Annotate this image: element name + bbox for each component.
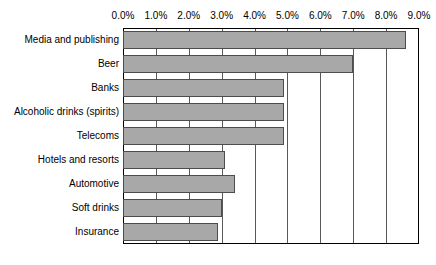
y-category-label: Hotels and resorts	[0, 154, 119, 166]
bar	[123, 127, 284, 145]
y-category-label: Alcoholic drinks (spirits)	[0, 106, 119, 118]
bar-row	[123, 100, 419, 124]
y-category-label: Insurance	[0, 226, 119, 238]
x-tick-label: 0.0%	[112, 10, 135, 21]
bar	[123, 79, 284, 97]
y-category-label: Automotive	[0, 178, 119, 190]
bar-row	[123, 52, 419, 76]
y-category-label: Media and publishing	[0, 34, 119, 46]
bar	[123, 55, 353, 73]
y-axis-category-labels: Media and publishingBeerBanksAlcoholic d…	[0, 28, 119, 244]
x-tick-label: 2.0%	[177, 10, 200, 21]
bar-row	[123, 196, 419, 220]
bar-row	[123, 148, 419, 172]
y-category-label: Banks	[0, 82, 119, 94]
y-category-label: Telecoms	[0, 130, 119, 142]
bar	[123, 103, 284, 121]
bar	[123, 223, 218, 241]
x-tick-label: 8.0%	[375, 10, 398, 21]
x-tick-label: 6.0%	[309, 10, 332, 21]
bar-row	[123, 172, 419, 196]
y-category-label: Soft drinks	[0, 202, 119, 214]
x-axis-tick-labels: 0.0%1.0%2.0%3.0%4.0%5.0%6.0%7.0%8.0%9.0%	[0, 10, 436, 24]
bar	[123, 31, 406, 49]
x-tick-label: 3.0%	[210, 10, 233, 21]
bar-row	[123, 124, 419, 148]
bar	[123, 151, 225, 169]
x-tick-label: 5.0%	[276, 10, 299, 21]
x-tick-label: 9.0%	[408, 10, 431, 21]
bars-layer	[123, 28, 419, 244]
x-tick-label: 1.0%	[144, 10, 167, 21]
x-tick-label: 4.0%	[243, 10, 266, 21]
x-tick-label: 7.0%	[342, 10, 365, 21]
bar-row	[123, 28, 419, 52]
y-category-label: Beer	[0, 58, 119, 70]
bar-row	[123, 220, 419, 244]
bar	[123, 175, 235, 193]
bar-row	[123, 76, 419, 100]
bar-chart: 0.0%1.0%2.0%3.0%4.0%5.0%6.0%7.0%8.0%9.0%…	[0, 0, 436, 265]
bar	[123, 199, 222, 217]
